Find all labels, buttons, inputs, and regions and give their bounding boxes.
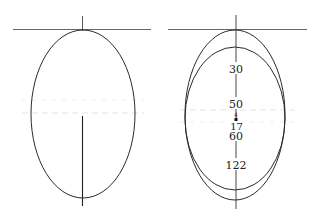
label-50: 50 [229,98,243,111]
label-4: 4 [234,111,238,118]
label-60: 60 [229,130,243,143]
left-figure [13,16,151,206]
right-figure: 30 50 4 17 60 122 [168,15,307,209]
diagram-canvas: 30 50 4 17 60 122 [0,0,318,220]
label-122: 122 [226,159,247,172]
label-30: 30 [229,63,243,76]
